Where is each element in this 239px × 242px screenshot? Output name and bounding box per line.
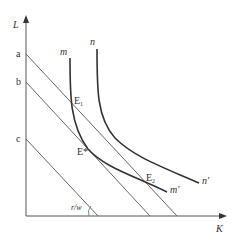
y-axis-label: L: [12, 19, 19, 30]
curve-m-prime-label: m': [170, 184, 180, 195]
x-axis-label: K: [215, 223, 224, 234]
y-axis-arrow-icon: [23, 15, 29, 23]
x-axis-arrow-icon: [219, 213, 227, 219]
intercept-c-label: c: [16, 133, 21, 144]
curve-n-label: n: [90, 36, 95, 47]
curve-n-prime-label: n': [202, 175, 210, 186]
intercept-a-label: a: [16, 48, 21, 59]
point-e2-label: E2: [146, 172, 155, 184]
isocost-line-a: [26, 54, 177, 216]
intercept-b-label: b: [16, 76, 21, 87]
isoquant-m: [70, 58, 167, 192]
isoquant-n: [97, 49, 199, 183]
point-estar-label: E*: [77, 146, 88, 157]
point-e1-label: E1: [74, 95, 83, 107]
angle-label: r/w: [71, 203, 82, 212]
diagram-canvas: L K a b c m n m' n' E1 E2 E* r/w: [0, 0, 239, 242]
isocost-lines: [26, 54, 177, 216]
curve-m-label: m: [60, 46, 67, 57]
